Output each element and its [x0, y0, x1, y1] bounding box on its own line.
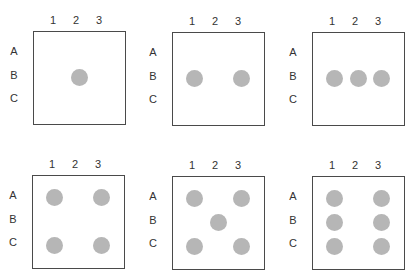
dot-C1	[326, 238, 343, 255]
grid-box	[172, 176, 265, 270]
grid-box	[172, 32, 265, 126]
dot-A3	[93, 189, 110, 206]
dot-C3	[93, 237, 110, 254]
row-label: A	[147, 46, 159, 58]
row-label: A	[287, 46, 299, 58]
row-label: A	[8, 45, 20, 57]
row-label: A	[147, 190, 159, 202]
row-label: C	[8, 92, 20, 104]
panel-three: 123ABC	[279, 1, 412, 141]
dot-A1	[46, 189, 63, 206]
row-label: A	[7, 189, 19, 201]
column-label: 3	[230, 159, 246, 171]
column-label: 3	[91, 14, 107, 26]
row-label: B	[287, 70, 299, 82]
row-label: A	[287, 190, 299, 202]
row-label: C	[287, 93, 299, 105]
column-label: 3	[370, 15, 386, 27]
dot-B2	[350, 70, 367, 87]
row-label: B	[147, 70, 159, 82]
dot-B2	[71, 69, 88, 86]
dot-B1	[326, 70, 343, 87]
column-label: 2	[347, 159, 363, 171]
grid-box	[312, 32, 405, 126]
dot-A3	[233, 190, 250, 207]
column-label: 3	[230, 15, 246, 27]
dot-C3	[233, 238, 250, 255]
dot-C3	[373, 238, 390, 255]
column-label: 2	[68, 14, 84, 26]
row-label: B	[8, 69, 20, 81]
panel-five: 123ABC	[139, 145, 279, 279]
column-label: 1	[324, 15, 340, 27]
dot-B3	[373, 70, 390, 87]
dot-C1	[186, 238, 203, 255]
column-label: 2	[347, 15, 363, 27]
column-label: 2	[207, 159, 223, 171]
column-label: 2	[207, 15, 223, 27]
column-label: 1	[324, 159, 340, 171]
column-label: 3	[370, 159, 386, 171]
dot-B3	[233, 70, 250, 87]
row-label: C	[147, 237, 159, 249]
row-label: C	[7, 236, 19, 248]
dot-A3	[373, 190, 390, 207]
dot-C1	[46, 237, 63, 254]
dot-B1	[186, 70, 203, 87]
row-label: B	[7, 213, 19, 225]
column-label: 1	[45, 14, 61, 26]
dot-A1	[326, 190, 343, 207]
dot-B2	[210, 214, 227, 231]
row-label: B	[147, 214, 159, 226]
dot-B1	[326, 214, 343, 231]
column-label: 1	[184, 15, 200, 27]
dot-A1	[186, 190, 203, 207]
panel-four: 123ABC	[0, 144, 139, 279]
panel-two: 123ABC	[139, 1, 279, 141]
dot-B3	[373, 214, 390, 231]
column-label: 1	[44, 158, 60, 170]
grid-box	[33, 31, 126, 125]
panel-six: 123ABC	[279, 145, 412, 279]
panel-one: 123ABC	[0, 0, 140, 140]
grid-box	[32, 175, 125, 269]
grid-box	[312, 176, 405, 270]
column-label: 2	[67, 158, 83, 170]
row-label: C	[147, 93, 159, 105]
column-label: 1	[184, 159, 200, 171]
row-label: C	[287, 237, 299, 249]
column-label: 3	[90, 158, 106, 170]
row-label: B	[287, 214, 299, 226]
